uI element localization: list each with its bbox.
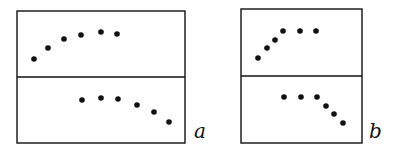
data-point xyxy=(151,109,157,115)
data-point xyxy=(61,36,67,42)
data-point xyxy=(255,55,261,61)
data-point xyxy=(45,45,51,51)
top-series xyxy=(31,29,120,62)
data-point xyxy=(166,119,172,125)
data-point xyxy=(280,28,286,34)
bottom-series xyxy=(79,95,172,125)
data-point xyxy=(281,94,287,100)
data-point xyxy=(98,95,104,101)
data-point xyxy=(79,97,85,103)
data-point xyxy=(272,37,278,43)
data-point xyxy=(323,103,329,109)
data-point xyxy=(98,29,104,35)
data-point xyxy=(264,45,270,51)
bottom-series xyxy=(281,94,346,126)
data-point xyxy=(314,94,320,100)
data-point xyxy=(114,31,120,37)
data-point xyxy=(78,32,84,38)
top-series xyxy=(255,28,319,61)
panel-b: b xyxy=(241,9,382,143)
data-point xyxy=(331,111,337,117)
data-point xyxy=(298,94,304,100)
panel-label: b xyxy=(369,119,382,143)
data-point xyxy=(134,102,140,108)
data-point xyxy=(340,120,346,126)
data-point xyxy=(313,28,319,34)
panel-label: a xyxy=(194,119,206,143)
panel-a: a xyxy=(17,11,206,143)
data-point xyxy=(31,56,37,62)
figure-canvas: ab xyxy=(0,0,399,153)
data-point xyxy=(115,96,121,102)
data-point xyxy=(297,28,303,34)
